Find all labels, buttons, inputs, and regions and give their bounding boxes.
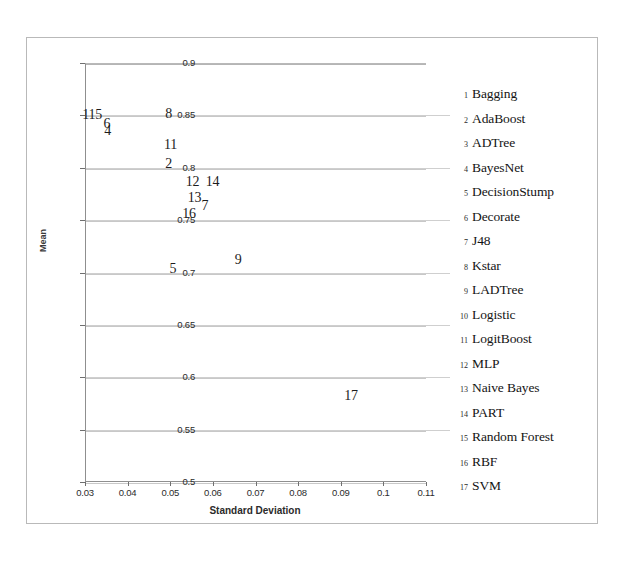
- legend-index: 4: [455, 165, 472, 174]
- data-point-7: 7: [201, 199, 208, 213]
- data-point-5: 5: [170, 262, 177, 276]
- figure: 1156481121214137165917 0.90.850.80.750.7…: [0, 0, 626, 572]
- legend-item-ladtree: 9LADTree: [455, 282, 605, 307]
- legend-index: 14: [455, 410, 472, 419]
- y-tick-mark-0.55: [80, 430, 85, 431]
- legend-index: 8: [455, 263, 472, 272]
- gridline-y-0.9: [86, 64, 426, 65]
- legend-item-adaboost: 2AdaBoost: [455, 111, 605, 136]
- gridline-y-0.6: [86, 378, 426, 379]
- legend-item-naive-bayes: 13Naive Bayes: [455, 380, 605, 405]
- y-tick-label-0.85: 0.85: [177, 109, 195, 120]
- legend-label: BayesNet: [472, 160, 524, 176]
- y-tick-mark-0.65: [80, 325, 85, 326]
- legend-index: 15: [455, 434, 472, 443]
- x-tick-label-0.08: 0.08: [278, 487, 318, 498]
- data-point-4: 4: [104, 124, 111, 138]
- legend-index: 12: [455, 361, 472, 370]
- legend-item-part: 14PART: [455, 405, 605, 430]
- y-tick-mark-0.75: [80, 220, 85, 221]
- plot-area: 1156481121214137165917: [85, 63, 426, 482]
- legend-item-j48: 7J48: [455, 233, 605, 258]
- legend-index: 5: [455, 189, 472, 198]
- legend-index: 16: [455, 459, 472, 468]
- x-tick-mark-0.07: [256, 482, 257, 486]
- y-tick-label-0.9: 0.9: [182, 57, 195, 68]
- legend-label: PART: [472, 405, 504, 421]
- legend-item-decorate: 6Decorate: [455, 209, 605, 234]
- x-tick-label-0.04: 0.04: [108, 487, 148, 498]
- y-tick-label-0.5: 0.5: [182, 476, 195, 487]
- legend-item-kstar: 8Kstar: [455, 258, 605, 283]
- x-tick-label-0.05: 0.05: [150, 487, 190, 498]
- legend-item-bayesnet: 4BayesNet: [455, 160, 605, 185]
- legend-label: Decorate: [472, 209, 520, 225]
- x-tick-label-0.06: 0.06: [193, 487, 233, 498]
- data-point-13: 13: [188, 191, 201, 205]
- legend-label: Logistic: [472, 307, 515, 323]
- legend-item-adtree: 3ADTree: [455, 135, 605, 160]
- legend-label: LADTree: [472, 282, 523, 298]
- data-point-17: 17: [344, 389, 357, 403]
- legend-index: 9: [455, 287, 472, 296]
- y-tick-label-0.8: 0.8: [182, 162, 195, 173]
- data-point-15: 15: [89, 108, 102, 122]
- legend-label: ADTree: [472, 135, 515, 151]
- gridline-y-0.8: [86, 169, 426, 170]
- y-tick-mark-0.7: [80, 273, 85, 274]
- y-tick-label-0.6: 0.6: [182, 371, 195, 382]
- legend-index: 17: [455, 483, 472, 492]
- data-point-8: 8: [165, 107, 172, 121]
- gridline-y-0.65: [86, 326, 426, 327]
- y-tick-label-0.7: 0.7: [182, 267, 195, 278]
- y-axis-label: Mean: [38, 229, 48, 252]
- y-tick-label-0.65: 0.65: [177, 319, 195, 330]
- legend-item-rbf: 16RBF: [455, 454, 605, 479]
- legend-label: J48: [472, 233, 490, 249]
- legend-index: 3: [455, 140, 472, 149]
- gridline-y-0.75: [86, 221, 426, 222]
- legend-index: 1: [455, 91, 472, 100]
- legend-label: SVM: [472, 478, 501, 494]
- y-tick-mark-0.8: [80, 168, 85, 169]
- legend-index: 7: [455, 238, 472, 247]
- data-point-9: 9: [235, 253, 242, 267]
- legend-label: Naive Bayes: [472, 380, 540, 396]
- x-tick-label-0.11: 0.11: [406, 487, 446, 498]
- legend-label: LogitBoost: [472, 331, 532, 347]
- y-tick-mark-0.9: [80, 63, 85, 64]
- x-tick-label-0.09: 0.09: [321, 487, 361, 498]
- x-tick-mark-0.03: [85, 482, 86, 486]
- x-tick-label-0.07: 0.07: [236, 487, 276, 498]
- legend-index: 2: [455, 116, 472, 125]
- data-point-11: 11: [164, 138, 177, 152]
- x-tick-mark-0.06: [213, 482, 214, 486]
- legend-item-decisionstump: 5DecisionStump: [455, 184, 605, 209]
- legend-label: RBF: [472, 454, 497, 470]
- x-tick-mark-0.1: [383, 482, 384, 486]
- legend-item-logitboost: 11LogitBoost: [455, 331, 605, 356]
- x-axis-label: Standard Deviation: [0, 505, 510, 516]
- x-tick-label-0.03: 0.03: [65, 487, 105, 498]
- legend: 1Bagging2AdaBoost3ADTree4BayesNet5Decisi…: [455, 86, 605, 503]
- x-tick-mark-0.05: [170, 482, 171, 486]
- data-point-14: 14: [206, 175, 219, 189]
- legend-label: AdaBoost: [472, 111, 525, 127]
- legend-label: Kstar: [472, 258, 501, 274]
- legend-index: 13: [455, 385, 472, 394]
- legend-index: 11: [455, 336, 472, 345]
- y-tick-label-0.75: 0.75: [177, 214, 195, 225]
- x-tick-mark-0.04: [128, 482, 129, 486]
- y-tick-mark-0.85: [80, 115, 85, 116]
- gridline-y-0.85: [86, 116, 426, 117]
- legend-index: 10: [455, 312, 472, 321]
- legend-item-random-forest: 15Random Forest: [455, 429, 605, 454]
- gridline-y-0.7: [86, 274, 426, 275]
- y-tick-mark-0.6: [80, 377, 85, 378]
- legend-label: MLP: [472, 356, 499, 372]
- x-tick-mark-0.09: [341, 482, 342, 486]
- legend-label: Random Forest: [472, 429, 554, 445]
- y-tick-label-0.55: 0.55: [177, 424, 195, 435]
- legend-item-mlp: 12MLP: [455, 356, 605, 381]
- gridline-y-0.55: [86, 431, 426, 432]
